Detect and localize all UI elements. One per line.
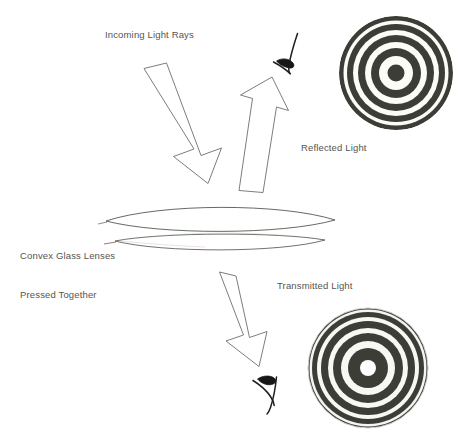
eye-symbol-reflected: [274, 34, 298, 74]
lower-convex-lens: [115, 233, 325, 250]
reflected-light-arrow: [239, 77, 289, 193]
label-incoming-light-rays: Incoming Light Rays: [105, 28, 194, 41]
label-reflected-light: Reflected Light: [301, 141, 367, 154]
transmitted-newtons-rings: [308, 308, 428, 428]
eye-symbol-transmitted: [253, 376, 277, 414]
newtons-rings-diagram: Incoming Light Rays Reflected Light Tran…: [0, 0, 467, 434]
diagram-canvas: [0, 0, 467, 434]
upper-convex-lens: [106, 207, 335, 231]
label-lenses-line2: Pressed Together: [20, 288, 115, 301]
reflected-newtons-rings: [339, 16, 453, 130]
label-lenses-line1: Convex Glass Lenses: [20, 249, 115, 262]
label-convex-glass-lenses: Convex Glass Lenses Pressed Together: [20, 223, 115, 327]
transmitted-light-arrow: [220, 272, 268, 367]
incoming-light-arrow: [144, 63, 222, 184]
label-transmitted-light: Transmitted Light: [277, 279, 353, 292]
